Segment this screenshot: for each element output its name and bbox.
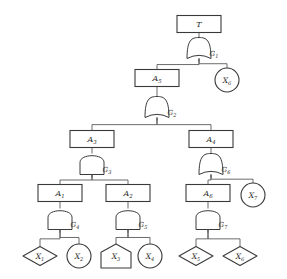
and-gate-icon	[196, 211, 220, 230]
node-x5[interactable]: X5	[179, 247, 213, 266]
connector-G2-A3	[92, 118, 157, 131]
gate-g3[interactable]: G3	[80, 156, 111, 178]
gate-label-g7: G7	[219, 221, 229, 230]
gate-g2[interactable]: G2	[145, 97, 176, 121]
node-x7[interactable]: X7	[241, 183, 265, 207]
node-a6[interactable]: A6	[186, 185, 230, 202]
gate-label-g6: G6	[222, 166, 232, 175]
gate-label-g3: G3	[103, 166, 112, 175]
and-gate-icon	[80, 156, 104, 175]
connector-G7-X5	[196, 230, 208, 247]
node-a4[interactable]: A4	[189, 131, 233, 148]
gate-label-g4: G4	[71, 221, 80, 230]
node-t[interactable]: T	[177, 16, 221, 33]
node-a2[interactable]: A2	[106, 185, 150, 202]
gate-g5[interactable]: G5	[116, 211, 147, 233]
connector-G4-X1	[40, 230, 60, 247]
gate-label-g2: G2	[168, 109, 177, 118]
connector-G5-X4	[128, 230, 150, 245]
node-x4[interactable]: X4	[138, 244, 162, 268]
and-gate-icon	[48, 211, 72, 230]
node-x3[interactable]: X3	[101, 244, 131, 268]
gate-g1[interactable]: G1	[187, 38, 218, 62]
connector-G6-X7	[211, 175, 253, 184]
connector-G1-A5	[157, 59, 199, 70]
and-gate-icon	[116, 211, 140, 230]
connector-G2-A4	[157, 118, 211, 131]
gate-g4[interactable]: G4	[48, 211, 79, 233]
node-x6b[interactable]: X6	[223, 247, 257, 266]
node-a3[interactable]: A3	[70, 131, 114, 148]
node-x2[interactable]: X2	[67, 244, 91, 268]
gate-label-g5: G5	[139, 221, 148, 230]
connector-G3-A2	[92, 175, 128, 185]
node-a1[interactable]: A1	[38, 185, 82, 202]
connector-G7-X6b	[208, 230, 240, 247]
node-layer: G1G2G3G6G4G5G7TA5X6A3A4A1A2A6X7X1X2X3X4X…	[23, 16, 265, 269]
or-gate-icon	[187, 38, 211, 59]
fault-tree-diagram: G1G2G3G6G4G5G7TA5X6A3A4A1A2A6X7X1X2X3X4X…	[0, 0, 287, 279]
connector-G5-X3	[116, 230, 128, 245]
node-label-t: T	[196, 20, 202, 29]
connector-G4-X2	[60, 230, 79, 245]
connector-G1-X6a	[199, 59, 227, 69]
gate-g7[interactable]: G7	[196, 211, 228, 233]
node-a5[interactable]: A5	[135, 70, 179, 87]
gate-g6[interactable]: G6	[199, 154, 231, 178]
or-gate-icon	[145, 97, 169, 118]
gate-label-g1: G1	[210, 50, 219, 59]
connector-G3-A1	[60, 175, 92, 185]
node-x1[interactable]: X1	[23, 247, 57, 266]
node-x6a[interactable]: X6	[215, 68, 239, 92]
or-gate-icon	[199, 154, 223, 175]
